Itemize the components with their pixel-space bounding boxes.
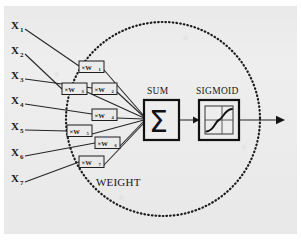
figure-canvas: X 1 X 2 X 3 X 4 X 5 X 6 X 7 ×W 1 ×W xyxy=(0,0,301,242)
input-sub-x4: 4 xyxy=(20,101,24,109)
input-sub-x6: 6 xyxy=(20,153,24,161)
sigmoid-block-label: SIGMOID xyxy=(196,86,239,96)
weight-label-w6: ×W xyxy=(98,140,109,147)
sigmoid-block[interactable] xyxy=(199,100,239,140)
input-sub-x7: 7 xyxy=(20,179,24,187)
neuron-diagram: X 1 X 2 X 3 X 4 X 5 X 6 X 7 ×W 1 ×W xyxy=(0,0,301,242)
output-arrow xyxy=(239,116,285,124)
weight-box-w7[interactable]: ×W 7 xyxy=(79,156,104,168)
weight-label-w3: ×W xyxy=(65,86,76,93)
input-sub-x5: 5 xyxy=(20,127,24,135)
weight-box-w6[interactable]: ×W 6 xyxy=(95,137,120,149)
weight-box-w3[interactable]: ×W 3 xyxy=(62,83,87,95)
input-label-x2: X xyxy=(11,44,19,56)
weight-box-w1[interactable]: ×W 1 xyxy=(79,61,104,73)
weight-label-w5: ×W xyxy=(70,128,81,135)
input-label-x3: X xyxy=(11,69,19,81)
weight-label-w7: ×W xyxy=(82,159,93,166)
input-sub-x2: 2 xyxy=(20,51,24,59)
input-label-x4: X xyxy=(11,94,19,106)
input-labels: X 1 X 2 X 3 X 4 X 5 X 6 X 7 xyxy=(11,19,24,187)
input-label-x6: X xyxy=(11,146,19,158)
weight-label-w1: ×W xyxy=(82,64,93,71)
weight-box-w4[interactable]: ×W 4 xyxy=(92,109,117,121)
input-label-x7: X xyxy=(11,172,19,184)
input-label-x5: X xyxy=(11,120,19,132)
sigma-glyph: Σ xyxy=(149,104,168,139)
weight-box-w5[interactable]: ×W 5 xyxy=(67,125,92,137)
sum-block-label: SUM xyxy=(147,86,169,96)
sum-to-sigmoid-arrow xyxy=(179,116,200,123)
weight-label-w4: ×W xyxy=(95,112,106,119)
input-label-x1: X xyxy=(11,19,19,31)
weight-group-label: WEIGHT xyxy=(96,176,141,188)
weight-label-w2: ×W xyxy=(95,86,106,93)
weight-box-w2[interactable]: ×W 2 xyxy=(92,83,117,95)
input-sub-x1: 1 xyxy=(20,26,24,34)
sum-block[interactable]: Σ xyxy=(144,100,179,140)
input-sub-x3: 3 xyxy=(20,76,24,84)
